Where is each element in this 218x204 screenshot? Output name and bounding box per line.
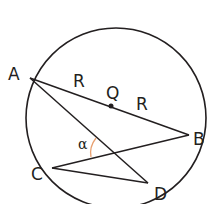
label-r-qb: R bbox=[136, 94, 148, 114]
label-r-aq: R bbox=[73, 71, 85, 91]
label-b: B bbox=[193, 129, 205, 149]
angle-arc-alpha bbox=[91, 138, 96, 157]
chord-ad bbox=[30, 78, 148, 183]
label-c: C bbox=[31, 164, 43, 184]
center-point-q bbox=[109, 104, 114, 109]
label-d: D bbox=[154, 184, 167, 204]
label-a: A bbox=[8, 64, 20, 84]
circle-diagram: A R Q R B C D α bbox=[0, 0, 218, 204]
chord-cb bbox=[52, 135, 189, 168]
label-q: Q bbox=[106, 83, 119, 103]
label-alpha: α bbox=[78, 136, 88, 152]
